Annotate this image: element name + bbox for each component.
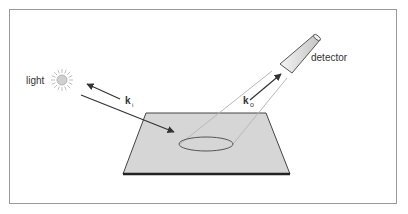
k-incident-subscript: i	[132, 102, 133, 108]
k-outgoing-subscript: o	[250, 101, 254, 108]
light-label: light	[26, 75, 45, 86]
k-incident-label: k	[125, 95, 131, 106]
k-outgoing-label: k	[243, 95, 249, 106]
light-source-icon	[51, 69, 73, 91]
detector-label: detector	[311, 52, 348, 63]
diagram-canvas: light k i k o detector	[0, 0, 408, 214]
